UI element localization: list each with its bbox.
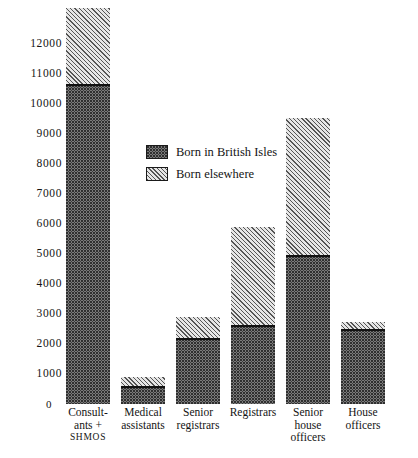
bar-segment-born-in-british-isles: [66, 85, 110, 405]
bar-segment-divider: [286, 255, 330, 257]
bar-segment-born-in-british-isles: [121, 387, 165, 404]
bar-group: [176, 317, 220, 404]
bar-segment-divider: [121, 386, 165, 388]
bar-segment-born-in-british-isles: [176, 339, 220, 404]
x-axis-labels: Consult-ants +SHMOSMedicalassistantsSeni…: [62, 406, 418, 458]
bar-group: [341, 322, 385, 405]
y-axis-tick-label: 12000: [4, 38, 62, 50]
bar-group: [231, 227, 275, 404]
y-axis-tick-label: 9000: [4, 128, 62, 140]
y-axis: 1200011000100009000800070006000500040003…: [0, 0, 62, 458]
chart-legend: Born in British IslesBorn elsewhere: [146, 144, 296, 188]
bar-segment-born-in-british-isles: [341, 330, 385, 404]
x-axis-label-line: House: [326, 406, 400, 419]
bar-chart: 1200011000100009000800070006000500040003…: [0, 0, 418, 458]
x-axis-label: Houseofficers: [326, 406, 400, 431]
y-axis-tick-label: 5000: [4, 248, 62, 260]
bar-segment-born-in-british-isles: [286, 256, 330, 405]
legend-swatch-born-elsewhere: [146, 167, 168, 181]
bar-segment-divider: [341, 329, 385, 331]
legend-label: Born in British Isles: [176, 145, 277, 159]
y-axis-tick-label: 2000: [4, 338, 62, 350]
legend-swatch-born-in-british-isles: [146, 145, 168, 159]
bar-segment-divider: [231, 325, 275, 327]
bar-segment-born-elsewhere: [231, 227, 275, 326]
y-axis-tick-label: 8000: [4, 158, 62, 170]
bar-segment-born-elsewhere: [66, 8, 110, 85]
bar-segment-born-elsewhere: [176, 317, 220, 339]
y-axis-tick-label: 4000: [4, 278, 62, 290]
x-axis-label-line: registrars: [161, 419, 235, 432]
plot-area: [62, 0, 418, 404]
y-axis-tick-label: 1000: [4, 368, 62, 380]
legend-item: Born elsewhere: [146, 166, 296, 181]
y-axis-tick-label: 6000: [4, 218, 62, 230]
y-axis-tick-label: 10000: [4, 98, 62, 110]
bar-segment-divider: [176, 338, 220, 340]
x-axis-label-line: officers: [326, 419, 400, 432]
y-axis-tick-label: 11000: [4, 68, 62, 80]
y-axis-tick-label: 7000: [4, 188, 62, 200]
legend-label: Born elsewhere: [176, 167, 254, 181]
x-axis-label-line: officers: [271, 431, 345, 444]
x-axis-label-line: SHMOS: [51, 431, 125, 444]
y-axis-tick-label: 3000: [4, 308, 62, 320]
bar-segment-born-in-british-isles: [231, 326, 275, 404]
bar-group: [66, 8, 110, 404]
bar-group: [121, 377, 165, 404]
legend-item: Born in British Isles: [146, 144, 296, 159]
bar-segment-divider: [66, 84, 110, 86]
